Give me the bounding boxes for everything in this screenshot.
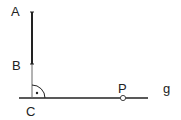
diagram-canvas: A B C P g bbox=[0, 0, 181, 120]
label-a: A bbox=[11, 4, 20, 19]
label-p: P bbox=[118, 81, 127, 96]
label-b: B bbox=[12, 58, 21, 73]
label-c: C bbox=[26, 104, 35, 119]
point-p bbox=[120, 95, 125, 100]
right-angle-arc bbox=[32, 85, 45, 98]
geometry-diagram: A B C P g bbox=[0, 0, 181, 120]
right-angle-dot bbox=[36, 92, 38, 94]
label-g: g bbox=[163, 81, 170, 96]
